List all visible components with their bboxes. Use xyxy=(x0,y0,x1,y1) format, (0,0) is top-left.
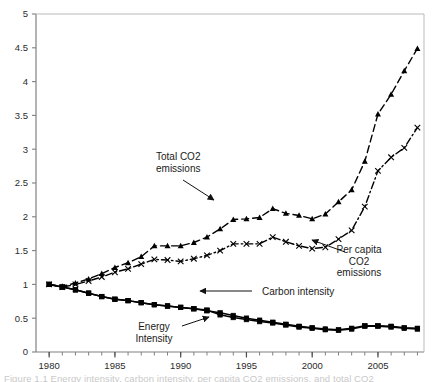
data-point-marker xyxy=(297,325,302,330)
x-tick-label: 1985 xyxy=(104,360,125,371)
y-tick-label: 4 xyxy=(23,76,28,87)
data-point-marker xyxy=(349,228,355,234)
x-tick-label: 2000 xyxy=(302,360,323,371)
data-point-marker xyxy=(309,246,315,252)
data-point-marker xyxy=(244,317,249,322)
data-point-marker xyxy=(126,298,131,303)
annotation-label: Total CO2 xyxy=(156,151,201,162)
y-tick-label: 2 xyxy=(23,211,28,222)
data-point-marker xyxy=(310,326,315,331)
data-point-marker xyxy=(389,325,394,330)
data-point-marker xyxy=(401,145,407,151)
annotation-per-capita-co2: Per capitaCO2emissions xyxy=(312,240,382,278)
annotation-label: Carbon intensity xyxy=(262,286,334,297)
data-point-marker xyxy=(257,319,262,324)
data-point-marker xyxy=(362,158,368,164)
y-tick-label: 3.5 xyxy=(15,110,28,121)
y-tick-label: 1.5 xyxy=(15,245,28,256)
line-chart: 00.511.522.533.544.551980198519901995200… xyxy=(0,0,442,382)
data-point-marker xyxy=(415,327,420,332)
annotation-label: emissions xyxy=(156,163,200,174)
data-point-marker xyxy=(165,304,170,309)
y-tick-label: 1 xyxy=(23,279,28,290)
data-point-marker xyxy=(402,326,407,331)
y-tick-label: 3 xyxy=(23,144,28,155)
annotation-label: Energy xyxy=(138,321,170,332)
data-point-marker xyxy=(192,306,197,311)
y-tick-label: 4.5 xyxy=(15,42,28,53)
data-point-marker xyxy=(178,305,183,310)
data-point-marker xyxy=(270,321,275,326)
x-tick-label: 1990 xyxy=(170,360,191,371)
annotation-label: Intensity xyxy=(135,333,172,344)
annotation-label: emissions xyxy=(337,267,381,278)
data-point-marker xyxy=(139,300,144,305)
data-point-marker xyxy=(231,315,236,320)
data-point-marker xyxy=(376,324,381,329)
data-point-marker xyxy=(349,187,355,193)
data-point-marker xyxy=(270,206,276,212)
data-point-marker xyxy=(205,308,210,313)
data-point-marker xyxy=(218,313,223,318)
annotation-carbon-intensity: Carbon intensity xyxy=(200,286,334,297)
data-point-marker xyxy=(86,291,91,296)
annotation-arrow xyxy=(183,180,214,200)
figure-container: 00.511.522.533.544.551980198519901995200… xyxy=(0,0,442,382)
x-tick-label: 2005 xyxy=(367,360,388,371)
data-point-marker xyxy=(363,324,368,329)
data-point-marker xyxy=(336,236,342,242)
y-tick-label: 2.5 xyxy=(15,177,28,188)
y-tick-label: 0.5 xyxy=(15,313,28,324)
data-point-marker xyxy=(125,260,131,266)
data-point-marker xyxy=(414,45,420,51)
annotation-label: Per capita xyxy=(336,244,381,255)
annotation-label: CO2 xyxy=(349,256,370,267)
data-point-marker xyxy=(375,111,381,117)
x-tick-label: 1995 xyxy=(236,360,257,371)
annotation-energy-intensity: EnergyIntensity xyxy=(135,317,209,344)
data-point-marker xyxy=(152,302,157,307)
data-point-marker xyxy=(388,91,394,97)
data-point-marker xyxy=(99,294,104,299)
x-tick-label: 1980 xyxy=(39,360,60,371)
data-point-marker xyxy=(47,282,52,287)
data-point-marker xyxy=(204,234,210,240)
data-point-marker xyxy=(323,327,328,332)
y-tick-label: 0 xyxy=(23,346,28,357)
figure-caption: Figure 1.1 Energy intensity, carbon inte… xyxy=(0,373,442,382)
data-point-marker xyxy=(284,323,289,328)
annotation-total-co2: Total CO2emissions xyxy=(156,151,214,200)
annotation-arrow xyxy=(182,317,209,326)
data-point-marker xyxy=(388,155,394,161)
data-point-marker xyxy=(113,297,118,302)
data-point-marker xyxy=(73,288,78,293)
data-point-marker xyxy=(349,327,354,332)
data-point-marker xyxy=(415,125,421,131)
data-point-marker xyxy=(60,285,65,290)
y-tick-label: 5 xyxy=(23,8,28,19)
data-point-marker xyxy=(336,328,341,333)
